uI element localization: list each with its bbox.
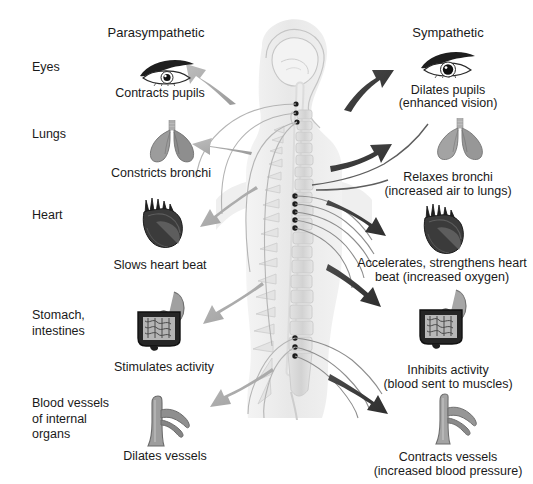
sympathetic-effect-note-heart: beat (increased oxygen) bbox=[375, 270, 509, 286]
parasympathetic-arrow-stomach bbox=[203, 282, 264, 324]
sympathetic-effect-note-stomach: (blood sent to muscles) bbox=[383, 377, 512, 393]
parasympathetic-arrow-lungs bbox=[192, 138, 252, 155]
sympathetic-column-header: Sympathetic bbox=[412, 25, 484, 41]
parasympathetic-effect-heart: Slows heart beat bbox=[113, 258, 206, 274]
sympathetic-effect-note-eyes: (enhanced vision) bbox=[399, 96, 498, 112]
lungs-icon bbox=[146, 120, 198, 168]
row-label-lungs: Lungs bbox=[32, 127, 66, 143]
parasympathetic-effect-eyes: Contracts pupils bbox=[115, 86, 205, 102]
stomach-intestines-icon bbox=[412, 288, 478, 354]
blood-vessel-icon bbox=[428, 392, 484, 450]
parasympathetic-arrow-vessels bbox=[210, 368, 274, 407]
lungs-icon bbox=[434, 118, 486, 166]
row-label-eyes: Eyes bbox=[32, 60, 60, 76]
sympathetic-arrow-eyes bbox=[344, 70, 394, 112]
parasympathetic-effect-stomach: Stimulates activity bbox=[114, 360, 214, 376]
eye-icon bbox=[134, 56, 200, 90]
row-label-blood-vessels: Blood vessels of internal organs bbox=[32, 396, 109, 443]
heart-icon bbox=[415, 204, 469, 262]
sympathetic-effect-note-lungs: (increased air to lungs) bbox=[384, 184, 511, 200]
eye-icon bbox=[415, 48, 481, 82]
sympathetic-arrow-heart bbox=[326, 200, 386, 236]
heart-icon bbox=[134, 198, 188, 256]
sympathetic-effect-note-vessels: (increased blood pressure) bbox=[374, 464, 523, 480]
blood-vessel-icon bbox=[142, 394, 198, 452]
autonomic-nervous-system-diagram: Parasympathetic Sympathetic Eyes Lungs H… bbox=[0, 0, 533, 484]
row-label-stomach-intestines: Stomach, intestines bbox=[32, 308, 85, 339]
parasympathetic-column-header: Parasympathetic bbox=[108, 25, 205, 41]
stomach-intestines-icon bbox=[130, 290, 196, 356]
parasympathetic-effect-vessels: Dilates vessels bbox=[123, 449, 206, 465]
parasympathetic-arrow-heart bbox=[200, 186, 258, 227]
parasympathetic-effect-lungs: Constricts bronchi bbox=[111, 166, 211, 182]
sympathetic-arrow-vessels bbox=[328, 374, 388, 414]
sympathetic-arrow-lungs bbox=[330, 144, 392, 172]
row-label-heart: Heart bbox=[32, 208, 63, 224]
